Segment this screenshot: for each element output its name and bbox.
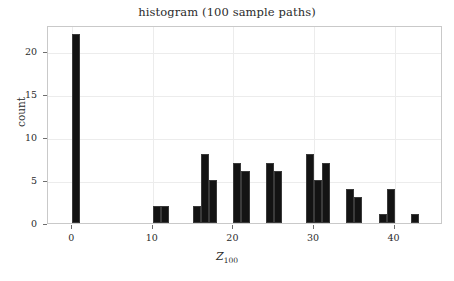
x-axis-label-subscript: 100 <box>224 256 238 265</box>
histogram-bar <box>322 163 330 223</box>
histogram-bar <box>346 189 354 223</box>
y-tick-mark <box>43 138 47 139</box>
y-tick-mark <box>43 95 47 96</box>
chart-title: histogram (100 sample paths) <box>0 5 454 19</box>
histogram-figure: histogram (100 sample paths) 05101520 01… <box>0 0 454 281</box>
bar-series <box>48 27 441 223</box>
histogram-bar <box>201 154 209 223</box>
histogram-bar <box>387 189 395 223</box>
x-tick-mark <box>313 225 314 229</box>
histogram-bar <box>411 214 419 223</box>
histogram-bar <box>266 163 274 223</box>
histogram-bar <box>193 206 201 223</box>
x-tick-mark <box>71 225 72 229</box>
histogram-bar <box>274 171 282 223</box>
histogram-bar <box>306 154 314 223</box>
histogram-bar <box>379 214 387 223</box>
y-tick-label: 0 <box>3 218 37 229</box>
y-tick-mark <box>43 224 47 225</box>
plot-area <box>47 26 442 224</box>
y-tick-label: 5 <box>3 175 37 186</box>
x-tick-label: 20 <box>212 232 252 243</box>
x-tick-mark <box>394 225 395 229</box>
x-tick-label: 40 <box>374 232 414 243</box>
x-tick-mark <box>152 225 153 229</box>
histogram-bar <box>153 206 161 223</box>
histogram-bar <box>241 171 249 223</box>
histogram-bar <box>72 34 80 223</box>
x-tick-label: 0 <box>51 232 91 243</box>
histogram-bar <box>161 206 169 223</box>
x-tick-label: 10 <box>132 232 172 243</box>
x-tick-label: 30 <box>293 232 333 243</box>
x-tick-mark <box>232 225 233 229</box>
histogram-bar <box>354 197 362 223</box>
x-axis-label: Z100 <box>0 250 454 265</box>
y-tick-mark <box>43 181 47 182</box>
y-tick-mark <box>43 52 47 53</box>
histogram-bar <box>209 180 217 223</box>
y-axis-label: count <box>15 77 27 147</box>
histogram-bar <box>233 163 241 223</box>
x-axis-label-base: Z <box>216 250 224 263</box>
y-tick-label: 20 <box>3 46 37 57</box>
histogram-bar <box>314 180 322 223</box>
